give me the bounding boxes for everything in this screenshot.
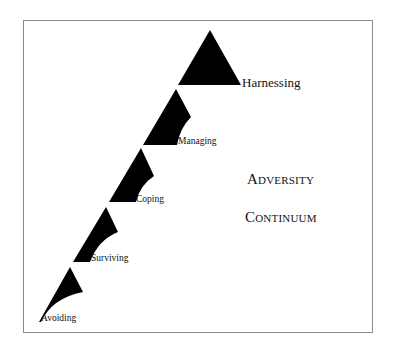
stage-label-surviving: Surviving: [91, 254, 128, 264]
continuum-shapes: [0, 0, 398, 353]
harnessing-triangle-icon: [178, 30, 241, 85]
stage-label-harnessing: Harnessing: [242, 76, 301, 89]
stage-label-coping: Coping: [136, 195, 164, 205]
diagram-title-line-1: Adversity: [247, 172, 314, 187]
stage-label-avoiding: Avoiding: [41, 314, 76, 324]
diagram-title-line-2: Continuum: [245, 210, 317, 225]
stage-label-managing: Managing: [178, 137, 217, 147]
